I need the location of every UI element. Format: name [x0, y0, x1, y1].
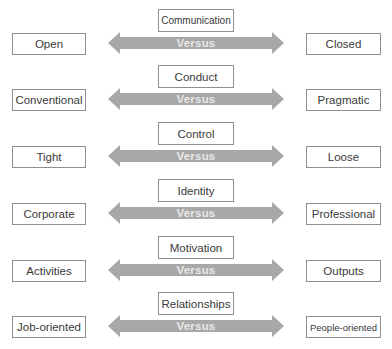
- right-pole-box: Pragmatic: [306, 89, 381, 111]
- left-pole-box: Corporate: [12, 203, 86, 225]
- versus-label: Versus: [108, 264, 284, 276]
- left-pole-box: Conventional: [12, 89, 86, 111]
- versus-label: Versus: [108, 37, 284, 49]
- dimension-row-communication: Communication Open Versus Closed: [0, 9, 392, 66]
- double-arrow-icon: Versus: [108, 315, 284, 337]
- dimension-label: Communication: [158, 9, 234, 32]
- versus-label: Versus: [108, 93, 284, 105]
- double-arrow-icon: Versus: [108, 32, 284, 54]
- left-pole-box: Activities: [12, 260, 86, 282]
- double-arrow-icon: Versus: [108, 88, 284, 110]
- double-arrow-icon: Versus: [108, 145, 284, 167]
- dimension-label: Identity: [158, 179, 234, 202]
- dimension-row-conduct: Conduct Conventional Versus Pragmatic: [0, 65, 392, 122]
- dimension-row-control: Control Tight Versus Loose: [0, 122, 392, 179]
- left-pole-box: Job-oriented: [12, 316, 86, 338]
- versus-label: Versus: [108, 320, 284, 332]
- dimension-label: Relationships: [158, 292, 234, 315]
- dimension-label: Motivation: [158, 236, 234, 259]
- versus-label: Versus: [108, 150, 284, 162]
- right-pole-box: Professional: [306, 203, 381, 225]
- dimension-label: Conduct: [158, 65, 234, 88]
- right-pole-box: Closed: [306, 33, 381, 55]
- left-pole-box: Tight: [12, 146, 86, 168]
- left-pole-box: Open: [12, 33, 86, 55]
- right-pole-box: Outputs: [306, 260, 381, 282]
- dimension-label: Control: [158, 122, 234, 145]
- dimension-row-identity: Identity Corporate Versus Professional: [0, 179, 392, 236]
- dimension-row-relationships: Relationships Job-oriented Versus People…: [0, 292, 392, 349]
- right-pole-box: Loose: [306, 146, 381, 168]
- double-arrow-icon: Versus: [108, 259, 284, 281]
- right-pole-box: People-oriented: [306, 316, 381, 338]
- double-arrow-icon: Versus: [108, 202, 284, 224]
- versus-label: Versus: [108, 207, 284, 219]
- dimension-row-motivation: Motivation Activities Versus Outputs: [0, 236, 392, 293]
